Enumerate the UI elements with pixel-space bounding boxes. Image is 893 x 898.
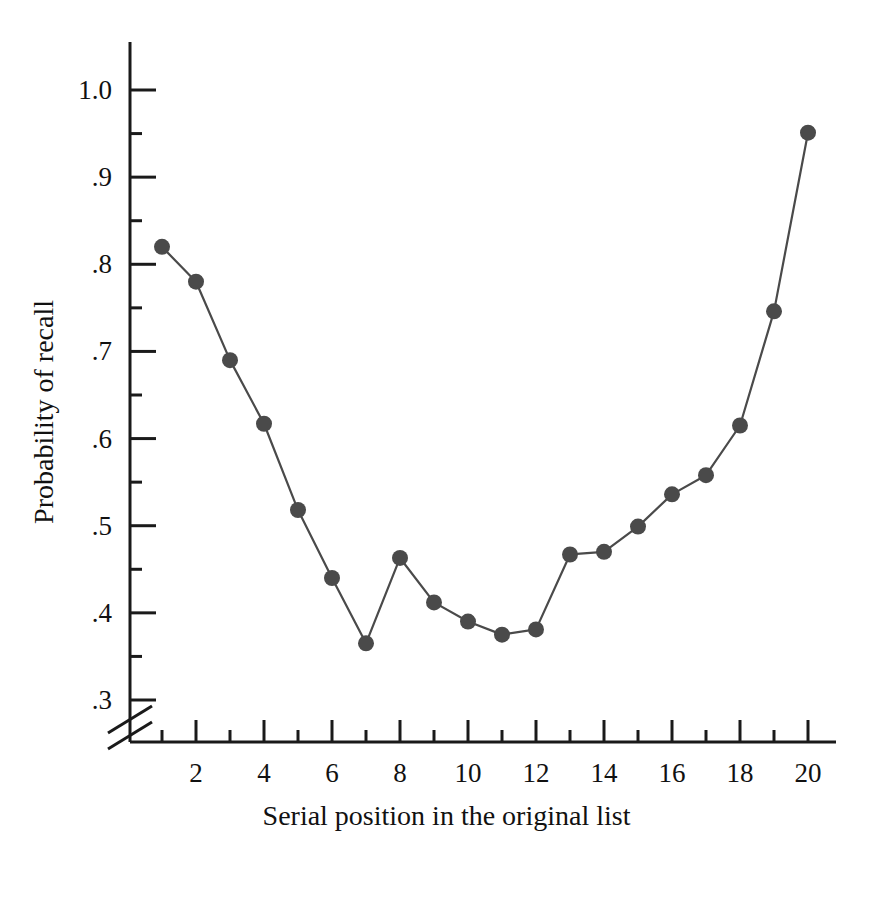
data-line <box>162 133 808 644</box>
y-axis-tick-label: .9 <box>0 162 112 193</box>
x-axis-tick-label: 2 <box>189 758 203 789</box>
data-point-markers <box>154 125 816 652</box>
data-point-marker <box>290 502 306 518</box>
x-axis-tick-label: 10 <box>455 758 482 789</box>
data-point-marker <box>222 352 238 368</box>
x-axis-tick-label: 4 <box>257 758 271 789</box>
x-axis-title: Serial position in the original list <box>0 800 893 832</box>
data-point-marker <box>460 614 476 630</box>
y-axis-tick-label: 1.0 <box>0 75 112 106</box>
x-axis-ticks <box>162 720 808 742</box>
x-axis-tick-label: 20 <box>795 758 822 789</box>
plot-area <box>0 0 893 898</box>
data-point-marker <box>528 621 544 637</box>
y-axis-tick-label: .3 <box>0 685 112 716</box>
data-point-marker <box>630 519 646 535</box>
data-point-marker <box>188 274 204 290</box>
y-axis-tick-label: .4 <box>0 597 112 628</box>
y-axis-ticks <box>130 90 156 700</box>
y-axis-title: Probability of recall <box>28 300 60 524</box>
data-point-marker <box>324 570 340 586</box>
data-point-marker <box>426 594 442 610</box>
data-point-marker <box>732 418 748 434</box>
data-point-marker <box>698 467 714 483</box>
data-point-marker <box>562 546 578 562</box>
data-point-marker <box>664 486 680 502</box>
x-axis-tick-label: 8 <box>393 758 407 789</box>
data-point-marker <box>358 635 374 651</box>
data-point-marker <box>596 544 612 560</box>
x-axis-tick-label: 18 <box>727 758 754 789</box>
x-axis-tick-label: 14 <box>591 758 618 789</box>
data-point-marker <box>392 550 408 566</box>
x-axis-tick-label: 12 <box>523 758 550 789</box>
data-point-marker <box>800 125 816 141</box>
serial-position-curve-figure: 1.0.9.8.7.6.5.4.3 2468101214161820 Seria… <box>0 0 893 898</box>
x-axis-tick-label: 6 <box>325 758 339 789</box>
data-point-marker <box>494 627 510 643</box>
data-point-marker <box>256 416 272 432</box>
axes <box>130 42 836 742</box>
y-axis-tick-label: .8 <box>0 249 112 280</box>
x-axis-tick-label: 16 <box>659 758 686 789</box>
data-point-marker <box>766 303 782 319</box>
data-point-marker <box>154 239 170 255</box>
